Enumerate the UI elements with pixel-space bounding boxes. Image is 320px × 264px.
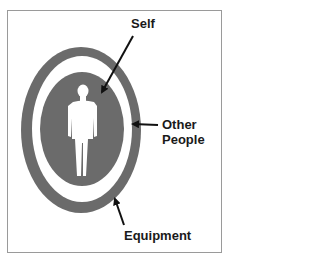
equipment-arrow bbox=[115, 199, 124, 225]
equipment-label: Equipment bbox=[124, 229, 191, 243]
other-people-label-line1: Other bbox=[162, 118, 197, 132]
other-people-arrow bbox=[133, 124, 158, 125]
self-label: Self bbox=[131, 17, 155, 31]
other-people-label-line2: People bbox=[162, 133, 205, 147]
